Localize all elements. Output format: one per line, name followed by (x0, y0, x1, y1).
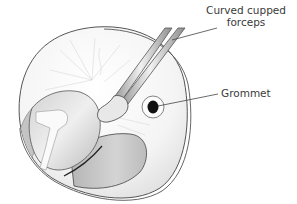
forceps-label-line1: Curved cupped (206, 4, 286, 16)
diagram-svg (0, 0, 297, 204)
grommet-label: Grommet (221, 87, 271, 99)
forceps-label-line2: forceps (206, 16, 286, 28)
grommet-lumen (148, 101, 159, 114)
forceps-label: Curved cupped forceps (206, 4, 286, 28)
grommet (142, 96, 164, 118)
otoscopic-diagram: Curved cupped forceps Grommet (0, 0, 297, 204)
